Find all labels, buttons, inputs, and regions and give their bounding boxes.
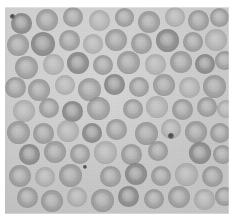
- film-grain-texture: [5, 7, 229, 214]
- plate-edge-top: [5, 7, 229, 8]
- plate-edge-right: [228, 7, 229, 214]
- micrograph-page: [0, 0, 234, 224]
- plate-edge-bottom: [5, 213, 229, 214]
- micrograph-plate: [5, 7, 229, 214]
